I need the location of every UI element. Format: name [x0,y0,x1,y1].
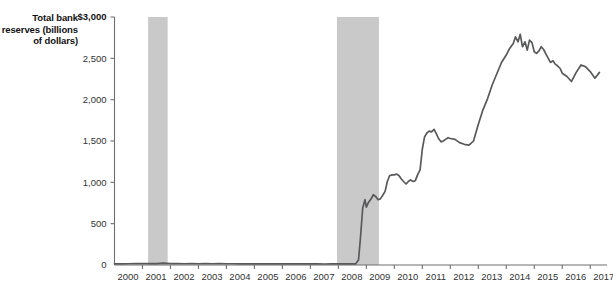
x-tick-label: 2007 [313,271,334,282]
y-axis: 05001,0001,5002,0002,500$3,000 [77,11,114,270]
chart-plot-area: 05001,0001,5002,0002,500$3,000 200020012… [0,0,613,292]
y-tick-label: 0 [101,259,106,270]
x-tick-label: 2004 [229,271,250,282]
x-tick-label: 2003 [201,271,222,282]
y-tick-label: 500 [91,218,107,229]
y-tick-label: 1,500 [83,135,107,146]
x-tick-label: 2001 [145,271,166,282]
y-tick-label: 2,000 [83,94,107,105]
x-tick-label: 2000 [117,271,138,282]
recession-2007-2009 [337,17,379,265]
y-tick-label: 1,000 [83,177,107,188]
x-tick-label: 2002 [173,271,194,282]
x-tick-label: 2010 [397,271,418,282]
x-tick-label: 2014 [509,271,530,282]
y-tick-label: $3,000 [77,11,106,22]
x-tick-label: 2016 [565,271,586,282]
x-tick-label: 2006 [285,271,306,282]
x-tick-label: 2017 [593,271,613,282]
x-tick-label: 2013 [481,271,502,282]
x-tick-label: 2008 [341,271,362,282]
x-tick-label: 2011 [426,271,446,282]
y-tick-label: 2,500 [83,53,107,64]
x-tick-label: 2009 [369,271,390,282]
recession-shading-group [148,17,379,265]
bank-reserves-chart: Total bank reserves (billions of dollars… [0,0,613,292]
x-axis: 2000200120022003200420052006200720082009… [115,265,613,282]
x-tick-label: 2005 [257,271,278,282]
x-tick-label: 2012 [453,271,474,282]
recession-2001 [148,17,168,265]
x-tick-label: 2015 [537,271,558,282]
